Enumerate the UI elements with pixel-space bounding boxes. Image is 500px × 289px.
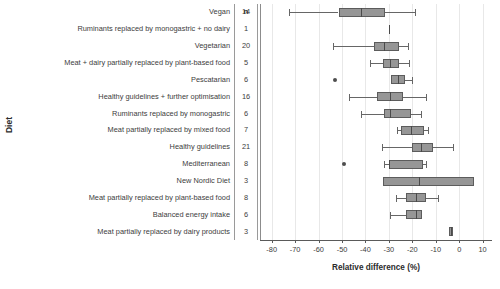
x-tick-label: 10 xyxy=(468,245,498,254)
gridline xyxy=(319,4,320,240)
n-value: 6 xyxy=(234,75,258,84)
n-value: 21 xyxy=(234,142,258,151)
gridline xyxy=(436,4,437,240)
x-axis-title: Relative difference (%) xyxy=(260,263,492,272)
x-tick xyxy=(459,240,460,243)
whisker-lower xyxy=(361,114,384,115)
diet-label: Meat partially replaced by dairy product… xyxy=(97,227,230,236)
median-line xyxy=(390,59,391,68)
y-axis-title: Diet xyxy=(2,0,16,250)
n-value: 14 xyxy=(234,7,258,16)
diet-label-column: VeganRuminants replaced by monogastric +… xyxy=(16,0,234,250)
median-line xyxy=(411,126,412,135)
y-axis-title-text: Diet xyxy=(4,117,14,133)
whisker-cap-upper xyxy=(438,195,439,202)
box xyxy=(383,59,399,68)
n-value: 7 xyxy=(234,125,258,134)
diet-label: Meat + dairy partially replaced by plant… xyxy=(64,58,230,67)
whisker-cap-lower xyxy=(349,94,350,101)
box xyxy=(389,160,423,169)
whisker-upper xyxy=(433,147,453,148)
median-line xyxy=(419,177,420,186)
whisker-lower xyxy=(390,215,406,216)
boxplot-chart: Diet VeganRuminants replaced by monogast… xyxy=(0,0,500,289)
diet-label: New Nordic Diet xyxy=(177,176,230,185)
x-tick xyxy=(412,240,413,243)
whisker-cap-upper xyxy=(426,161,427,168)
whisker-cap-upper xyxy=(421,111,422,118)
gridline xyxy=(295,4,296,240)
whisker-cap-lower xyxy=(384,161,385,168)
whisker-cap-lower xyxy=(390,212,391,219)
n-value: 1 xyxy=(234,24,258,33)
box xyxy=(383,177,474,186)
whisker-lower xyxy=(349,97,377,98)
box xyxy=(339,8,386,17)
gridline xyxy=(272,4,273,240)
diet-label: Balanced energy intake xyxy=(153,210,230,219)
x-tick xyxy=(436,240,437,243)
median-line xyxy=(451,227,452,236)
box xyxy=(384,109,411,118)
x-tick xyxy=(272,240,273,243)
whisker-cap-lower xyxy=(397,127,398,134)
panel-left-border xyxy=(260,4,261,240)
median-line xyxy=(390,109,391,118)
whisker-lower xyxy=(333,46,374,47)
x-tick xyxy=(483,240,484,243)
gridline xyxy=(412,4,413,240)
whisker-cap-upper xyxy=(453,144,454,151)
gridline xyxy=(342,4,343,240)
outlier-point xyxy=(333,78,337,82)
whisker-upper xyxy=(411,114,420,115)
gridline xyxy=(389,4,390,240)
whisker-cap-upper xyxy=(428,127,429,134)
plot-panel xyxy=(260,4,492,240)
n-value: 6 xyxy=(234,109,258,118)
whisker-cap-lower xyxy=(396,195,397,202)
gridline xyxy=(365,4,366,240)
whisker-upper xyxy=(405,80,412,81)
median-line xyxy=(416,193,417,202)
gridline xyxy=(459,4,460,240)
n-value: 20 xyxy=(234,41,258,50)
whisker-cap-upper xyxy=(426,94,427,101)
whisker-cap-lower xyxy=(370,60,371,67)
whisker-cap-upper xyxy=(409,60,410,67)
whisker-upper xyxy=(399,63,408,64)
n-value: 5 xyxy=(234,58,258,67)
n-column-divider-right xyxy=(257,4,258,240)
diet-label: Meat partially replaced by plant-based f… xyxy=(89,193,230,202)
median-line xyxy=(390,92,391,101)
n-value: 8 xyxy=(234,159,258,168)
whisker-cap-lower xyxy=(289,9,290,16)
diet-label: Vegetarian xyxy=(195,41,230,50)
x-tick xyxy=(389,240,390,243)
box xyxy=(401,126,424,135)
whisker-cap-upper xyxy=(415,9,416,16)
diet-label: Vegan xyxy=(209,7,230,16)
gridline xyxy=(483,4,484,240)
single-observation-marker xyxy=(389,25,390,34)
diet-label: Healthy guidelines + further optimisatio… xyxy=(98,92,230,101)
n-value: 16 xyxy=(234,92,258,101)
whisker-cap-lower xyxy=(361,111,362,118)
x-tick xyxy=(342,240,343,243)
diet-label: Meat partially replaced by mixed food xyxy=(108,125,230,134)
outlier-point xyxy=(342,162,346,166)
whisker-upper xyxy=(399,46,407,47)
diet-label: Mediterranean xyxy=(182,159,230,168)
median-line xyxy=(384,42,385,51)
whisker-lower xyxy=(289,12,338,13)
whisker-cap-lower xyxy=(382,144,383,151)
n-value: 8 xyxy=(234,193,258,202)
median-line xyxy=(361,8,362,17)
box xyxy=(406,210,421,219)
x-tick xyxy=(295,240,296,243)
whisker-upper xyxy=(385,12,414,13)
median-line xyxy=(389,160,390,169)
box xyxy=(412,143,433,152)
whisker-lower xyxy=(370,63,383,64)
x-tick xyxy=(365,240,366,243)
box xyxy=(374,42,400,51)
